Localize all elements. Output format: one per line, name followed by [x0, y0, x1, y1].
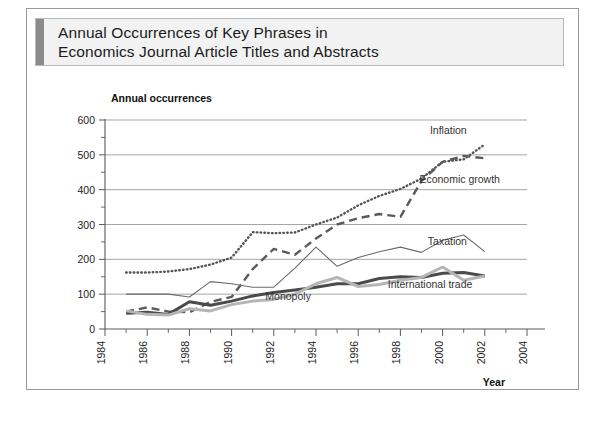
labels-group: 0100200300400500600198419861988199019921…: [77, 92, 529, 388]
y-tick-label-500: 500: [77, 149, 95, 161]
y-tick-label-200: 200: [77, 253, 95, 265]
y-tick-label-300: 300: [77, 219, 95, 231]
x-tick-label-1996: 1996: [348, 341, 360, 365]
chart-title-line-2: Economics Journal Article Titles and Abs…: [58, 42, 379, 62]
tickmarks-group: [99, 120, 527, 336]
series-label-inflation: Inflation: [430, 124, 467, 136]
y-tick-label-400: 400: [77, 184, 95, 196]
x-tick-label-1994: 1994: [306, 341, 318, 365]
gridlines-group: [105, 120, 527, 294]
x-tick-label-1992: 1992: [264, 341, 276, 365]
y-tick-label-100: 100: [77, 288, 95, 300]
series-line-inflation: [126, 144, 485, 272]
x-axis-title: Year: [483, 376, 505, 388]
x-tick-label-1990: 1990: [222, 341, 234, 365]
x-tick-label-1998: 1998: [390, 341, 402, 365]
x-tick-label-2002: 2002: [475, 341, 487, 365]
x-tick-label-1984: 1984: [95, 341, 107, 365]
page-title: Annual Occurrences of Key Phrases in Eco…: [44, 23, 379, 62]
line-chart: 0100200300400500600198419861988199019921…: [27, 71, 580, 389]
series-label-taxation: Taxation: [428, 235, 467, 247]
series-label-economic-growth: Economic growth: [419, 173, 500, 185]
chart-title-banner: Annual Occurrences of Key Phrases in Eco…: [35, 18, 564, 66]
axes-group: [105, 119, 545, 329]
x-tick-label-1986: 1986: [137, 341, 149, 365]
figure-frame: Annual Occurrences of Key Phrases in Eco…: [26, 8, 579, 390]
series-label-international-trade: International trade: [388, 278, 473, 290]
y-tick-label-0: 0: [89, 323, 95, 335]
chart-title-line-1: Annual Occurrences of Key Phrases in: [58, 23, 379, 43]
x-tick-label-1988: 1988: [179, 341, 191, 365]
series-label-monopoly: Monopoly: [265, 290, 311, 302]
y-axis-title: Annual occurrences: [111, 92, 212, 104]
y-tick-label-600: 600: [77, 114, 95, 126]
x-tick-label-2000: 2000: [433, 341, 445, 365]
plot-area: 0100200300400500600198419861988199019921…: [27, 71, 580, 389]
title-accent-bar: [36, 19, 44, 65]
x-tick-label-2004: 2004: [517, 341, 529, 365]
